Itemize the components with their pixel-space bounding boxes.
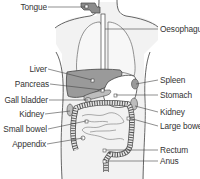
label-kidney-right: Kidney: [160, 107, 185, 117]
tongue-marker: [85, 5, 88, 8]
label-liver: Liver: [30, 64, 47, 74]
label-tongue: Tongue: [20, 2, 47, 12]
label-oesophagus: Oesophagus: [160, 24, 200, 34]
body-outline-right: [143, 52, 150, 179]
label-stomach: Stomach: [160, 90, 192, 100]
rectum-marker: [103, 149, 106, 152]
stomach-marker: [114, 94, 117, 97]
pancreas-marker: [101, 89, 104, 92]
large-bowel-marker: [127, 117, 130, 120]
label-pancreas: Pancreas: [15, 79, 49, 89]
label-small-bowel: Small bowel: [3, 124, 47, 134]
liver-marker: [91, 79, 94, 82]
label-anus: Anus: [160, 156, 179, 166]
oesophagus: [101, 14, 105, 76]
label-spleen: Spleen: [160, 75, 185, 85]
small-bowel-marker: [85, 120, 88, 123]
label-appendix: Appendix: [12, 139, 46, 149]
label-gall-bladder: Gall bladder: [4, 95, 48, 105]
tongue: [81, 3, 100, 13]
label-rectum: Rectum: [160, 145, 188, 155]
label-large-bowel: Large bowel: [160, 121, 200, 131]
label-kidney-left: Kidney: [19, 109, 44, 119]
anus-marker: [103, 160, 106, 163]
